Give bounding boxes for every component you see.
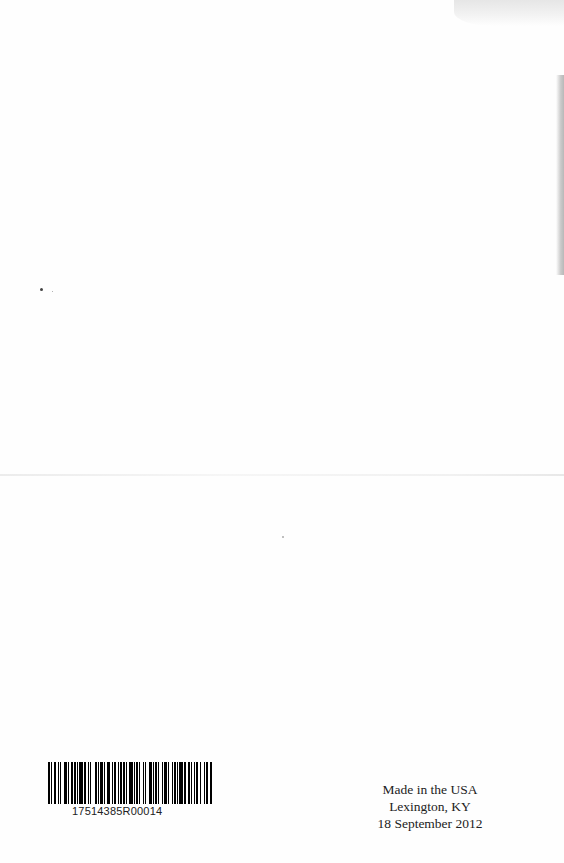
imprint-location: Lexington, KY bbox=[342, 798, 518, 815]
barcode-number: 17514385R00014 bbox=[72, 805, 202, 817]
barcode bbox=[48, 762, 214, 804]
scan-corner-smudge bbox=[454, 0, 564, 26]
barcode-gap bbox=[212, 762, 213, 804]
page-fold-line bbox=[0, 474, 564, 476]
printer-imprint: Made in the USA Lexington, KY 18 Septemb… bbox=[342, 781, 518, 832]
blank-book-page: 17514385R00014 Made in the USA Lexington… bbox=[0, 0, 564, 863]
scan-speck bbox=[40, 288, 43, 291]
scan-speck bbox=[52, 291, 53, 292]
imprint-date: 18 September 2012 bbox=[342, 815, 518, 832]
scan-speck bbox=[282, 536, 284, 538]
scan-edge-shadow bbox=[556, 75, 564, 275]
imprint-made-in: Made in the USA bbox=[342, 781, 518, 798]
